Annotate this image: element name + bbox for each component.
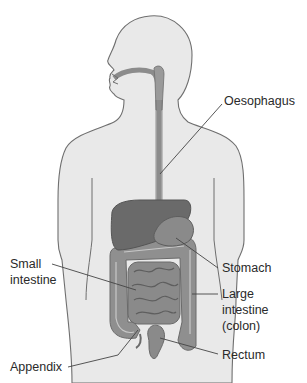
label-large-intestine-2: intestine xyxy=(222,303,269,318)
digestive-system-diagram xyxy=(0,0,307,383)
label-oesophagus: Oesophagus xyxy=(224,94,295,109)
label-rectum: Rectum xyxy=(222,348,265,363)
label-stomach: Stomach xyxy=(222,261,271,276)
label-small-intestine-1: Small xyxy=(10,257,41,272)
label-large-intestine-3: (colon) xyxy=(222,319,260,334)
label-large-intestine-1: Large xyxy=(222,287,254,302)
label-appendix: Appendix xyxy=(10,360,62,375)
label-small-intestine-2: intestine xyxy=(10,273,57,288)
